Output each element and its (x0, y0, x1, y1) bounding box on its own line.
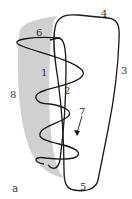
shaded-region (18, 16, 64, 178)
label-6: 6 (36, 27, 42, 38)
label-2: 2 (64, 85, 70, 96)
label-4: 4 (101, 8, 107, 19)
arrow-7-head (74, 130, 80, 136)
label-1: 1 (41, 67, 47, 78)
panel-label: a (12, 183, 18, 194)
label-3: 3 (121, 65, 127, 76)
label-8: 8 (10, 89, 16, 100)
diagram-figure: 1 2 3 4 5 6 7 8 a (0, 0, 132, 199)
label-7: 7 (79, 106, 85, 117)
main-outline (54, 15, 119, 191)
arrow-7-shaft (77, 116, 82, 133)
label-5: 5 (80, 181, 86, 192)
